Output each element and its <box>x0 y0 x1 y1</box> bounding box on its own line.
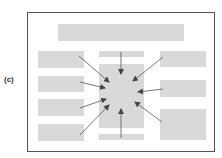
arrow-from-right-2 <box>138 89 163 92</box>
arrows-layer <box>0 0 222 158</box>
arrow-from-right-3 <box>135 102 162 122</box>
arrow-from-left-4 <box>80 105 109 135</box>
arrow-from-left-3 <box>80 99 106 108</box>
arrow-from-left-1 <box>79 56 109 82</box>
arrow-from-left-2 <box>80 82 105 88</box>
arrow-from-right-1 <box>133 57 163 81</box>
